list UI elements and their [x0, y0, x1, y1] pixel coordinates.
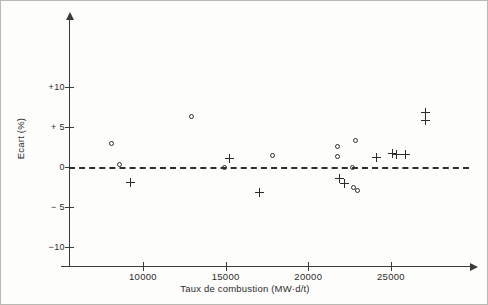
data-point-circle: [189, 114, 194, 119]
y-tick-label: − 5: [29, 202, 65, 212]
y-tick-mark: [65, 127, 74, 128]
y-axis-arrow-icon: [66, 12, 74, 20]
x-tick-mark: [391, 262, 392, 271]
x-axis-line: [61, 266, 470, 267]
y-tick-label: −10: [29, 242, 65, 252]
data-point-circle: [109, 141, 114, 146]
x-tick-mark: [226, 262, 227, 271]
data-point-plus: [372, 153, 381, 162]
y-tick-label: + 5: [29, 122, 65, 132]
data-point-plus: [401, 150, 410, 159]
y-tick-label: +10: [29, 82, 65, 92]
data-point-plus: [340, 179, 349, 188]
data-point-plus: [126, 178, 135, 187]
x-tick-mark: [308, 262, 309, 271]
data-point-plus: [225, 154, 234, 163]
y-tick-label-wrap: + 5: [1, 122, 65, 133]
y-tick-mark: [65, 207, 74, 208]
x-tick-label: 25000: [361, 271, 421, 282]
y-tick-mark: [65, 87, 74, 88]
chart-figure: +10+ 50− 5−10 10000150002000025000 Ecart…: [0, 0, 488, 305]
data-point-circle: [222, 165, 227, 170]
x-axis-title: Taux de combustion (MW·d/t): [1, 283, 488, 294]
y-tick-label-wrap: − 5: [1, 202, 65, 213]
scatter-plot-area: +10+ 50− 5−10 10000150002000025000 Ecart…: [1, 1, 488, 305]
y-axis-title: Ecart (%): [15, 104, 26, 174]
x-tick-label: 20000: [278, 271, 338, 282]
y-tick-label-wrap: 0: [1, 162, 65, 173]
data-point-circle: [353, 138, 358, 143]
y-tick-label-wrap: −10: [1, 242, 65, 253]
y-tick-label: 0: [29, 162, 65, 172]
data-point-circle: [335, 154, 340, 159]
data-point-plus: [421, 116, 430, 125]
x-tick-label: 15000: [196, 271, 256, 282]
y-tick-mark: [65, 247, 74, 248]
data-point-circle: [270, 153, 275, 158]
data-point-plus: [255, 188, 264, 197]
y-tick-label-wrap: +10: [1, 82, 65, 93]
x-tick-mark: [143, 262, 144, 271]
data-point-circle: [335, 144, 340, 149]
x-tick-label: 10000: [113, 271, 173, 282]
zero-reference-line: [69, 167, 469, 169]
y-axis-line: [69, 19, 70, 267]
data-point-plus: [392, 150, 401, 159]
x-axis-arrow-icon: [470, 263, 478, 271]
data-point-circle: [355, 188, 360, 193]
